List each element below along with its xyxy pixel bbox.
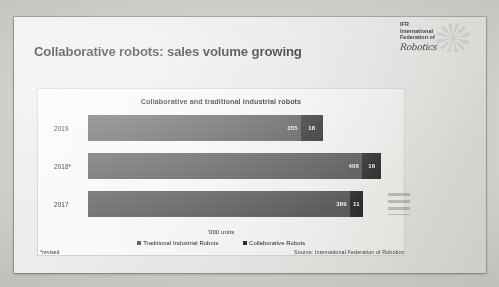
bar-segment-collaborative-2017: 11: [350, 191, 363, 217]
photographed-page: Collaborative robots: sales volume growi…: [0, 0, 499, 287]
bar-segment-traditional-2019: 355: [88, 115, 301, 141]
chart-title: Collaborative and traditional industrial…: [38, 97, 404, 106]
legend-label-traditional: Traditional Industrial Robots: [143, 240, 218, 246]
legend-swatch-collaborative-icon: [243, 241, 247, 245]
chart-panel: Collaborative and traditional industrial…: [38, 89, 404, 255]
chart-legend: Traditional Industrial Robots Collaborat…: [38, 240, 404, 246]
chart-row-2019: 2019 355 18: [54, 115, 394, 141]
chart-row-2017: 2017 389 11: [54, 191, 394, 217]
footnote-revised: *revised: [40, 249, 60, 255]
presentation-slide: Collaborative robots: sales volume growi…: [14, 17, 486, 273]
legend-item-traditional: Traditional Industrial Robots: [137, 240, 219, 246]
bar-value-traditional-2018: 406: [349, 163, 362, 169]
bar-value-collaborative-2017: 11: [350, 201, 363, 207]
page-title: Collaborative robots: sales volume growi…: [34, 44, 302, 59]
bar-value-traditional-2019: 355: [287, 125, 300, 131]
logo-script-robotics: Robotics: [399, 42, 472, 53]
bar-value-traditional-2017: 389: [336, 201, 349, 207]
footnote-source: Source: International Federation of Robo…: [294, 249, 404, 255]
category-label-2018: 2018*: [54, 163, 86, 170]
chart-row-2018: 2018* 406 16: [54, 153, 394, 179]
chart-plot-area: 2019 355 18 2018* 406: [54, 115, 394, 223]
category-label-2019: 2019: [54, 125, 86, 132]
photo-blur-streak: [388, 193, 410, 215]
legend-label-collaborative: Collaborative Robots: [249, 240, 305, 246]
bar-segment-traditional-2018: 406: [88, 153, 362, 179]
bar-segment-traditional-2017: 389: [88, 191, 350, 217]
category-label-2017: 2017: [54, 201, 86, 208]
bar-track-2019: 355 18: [88, 115, 394, 141]
legend-item-collaborative: Collaborative Robots: [243, 240, 306, 246]
legend-swatch-traditional-icon: [137, 241, 141, 245]
bar-value-collaborative-2018: 16: [362, 163, 382, 169]
axis-label-units: '000 units: [38, 229, 404, 235]
bar-segment-collaborative-2019: 18: [301, 115, 323, 141]
bar-track-2018: 406 16: [88, 153, 394, 179]
bar-segment-collaborative-2018: 16: [362, 153, 382, 179]
bar-track-2017: 389 11: [88, 191, 394, 217]
ifr-logo: IFR International Federation of Robotics: [400, 21, 472, 53]
bar-value-collaborative-2019: 18: [301, 125, 323, 131]
